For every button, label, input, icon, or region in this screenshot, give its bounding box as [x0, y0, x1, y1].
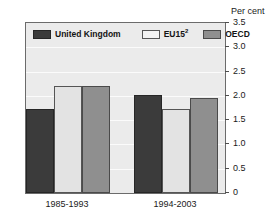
bar-oecd-1994-2003 — [190, 98, 218, 193]
y-axis-tick-label: 3.5 — [233, 17, 246, 27]
y-axis-tick-label: 3.0 — [233, 41, 246, 51]
legend-label-eu15-text: EU15 — [164, 29, 185, 39]
legend-swatch-icon-united-kingdom — [33, 30, 51, 39]
y-axis-tick-label: 1.5 — [233, 114, 246, 124]
y-axis-tick-label: 2.5 — [233, 66, 246, 76]
bar-oecd-1985-1993 — [82, 86, 110, 193]
legend-footnote-eu15: 2 — [185, 28, 188, 34]
x-axis-category-label: 1994-2003 — [135, 199, 215, 209]
y-axis-tick — [225, 143, 229, 144]
bar-uk-1994-2003 — [134, 95, 162, 193]
y-axis-tick — [225, 46, 229, 47]
bar-eu15-1985-1993 — [54, 86, 82, 193]
y-axis-unit-label: Per cent — [231, 6, 265, 16]
y-axis-tick — [225, 95, 229, 96]
legend-swatch-icon-oecd — [203, 30, 221, 39]
y-axis-tick-label: 0.5 — [233, 163, 246, 173]
legend-label-united-kingdom: United Kingdom — [55, 29, 121, 39]
x-axis-category-label: 1985-1993 — [27, 199, 107, 209]
bar-uk-1985-1993 — [26, 109, 54, 193]
y-axis-tick — [225, 71, 229, 72]
legend-item-oecd: OECD — [203, 29, 250, 39]
legend-item-eu15: EU152 — [142, 29, 189, 39]
legend-item-united-kingdom: United Kingdom — [33, 29, 121, 39]
legend: United Kingdom EU152 OECD — [33, 29, 250, 39]
plot-area — [25, 22, 226, 194]
y-axis-tick-label: 2.0 — [233, 90, 246, 100]
bar-chart: Per cent 00.51.01.52.02.53.03.5 1985-199… — [0, 0, 275, 223]
y-axis-tick — [225, 22, 229, 23]
bar-eu15-1994-2003 — [162, 109, 190, 193]
legend-swatch-icon-eu15 — [142, 30, 160, 39]
legend-label-eu15: EU152 — [164, 29, 189, 39]
y-axis-tick — [225, 168, 229, 169]
y-axis-tick — [225, 119, 229, 120]
legend-label-oecd: OECD — [225, 29, 250, 39]
y-axis-tick-label: 1.0 — [233, 138, 246, 148]
y-axis-tick — [225, 192, 229, 193]
y-axis-tick-label: 0 — [233, 187, 238, 197]
bars-layer — [26, 23, 225, 193]
